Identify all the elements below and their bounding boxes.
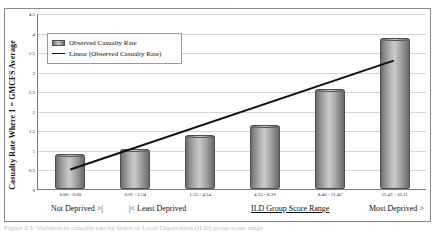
y-tick-label: 0 (33, 188, 36, 193)
legend-item-linear: Linear (Observed Casualty Rate) (52, 48, 177, 59)
y-tick-label: 3.5 (29, 51, 35, 56)
gridline (38, 190, 426, 191)
x-tick-label: 8.40 - 11.42 (318, 192, 342, 197)
y-tick-label: 1 (33, 148, 36, 153)
x-label-not-deprived: Not Deprived >| (51, 204, 103, 213)
y-tick-label: 1.5 (29, 129, 35, 134)
y-tick-label: 3 (33, 70, 36, 75)
chart-frame: Casualty Rate Where 1 = GMCFS Average 00… (4, 8, 431, 222)
x-tick-label: 0.00 - 0.00 (60, 192, 82, 197)
figure-page: · · · · · · Casualty Rate Where 1 = GMCF… (0, 0, 435, 233)
y-tick-label: 4 (33, 31, 36, 36)
x-axis-title: ILD Group Score Range (251, 204, 329, 213)
x-axis-annotations: Not Deprived >| |< Least Deprived ILD Gr… (37, 204, 424, 218)
y-tick-label: 0.5 (29, 168, 35, 173)
y-axis-title: Casualty Rate Where 1 = GMCFS Average (8, 40, 17, 190)
bottom-clipped-caption: Figure 2.3: Variation in casualty rate b… (0, 224, 435, 233)
x-tick-label: 4.55 - 8.39 (254, 192, 276, 197)
x-tick-label: 1.55 - 4.54 (189, 192, 211, 197)
line-swatch-icon (52, 53, 65, 54)
x-tick-label: 11.43 - 16.11 (381, 192, 407, 197)
y-tick-label: 2 (33, 109, 36, 114)
x-label-most-deprived: Most Deprived > (369, 204, 424, 213)
chart-legend: Observed Casualty Rate Linear (Observed … (47, 33, 182, 64)
legend-item-observed: Observed Casualty Rate (52, 37, 177, 48)
top-clipped-caption: · · · · · · (0, 0, 435, 8)
chart-canvas: Casualty Rate Where 1 = GMCFS Average 00… (5, 9, 430, 221)
legend-label-observed: Observed Casualty Rate (69, 39, 137, 47)
legend-label-linear: Linear (Observed Casualty Rate) (69, 50, 161, 58)
y-tick-label: 4.5 (29, 12, 35, 17)
x-tick-label: 0.01 - 1.54 (124, 192, 146, 197)
x-label-least-deprived: |< Least Deprived (129, 204, 186, 213)
y-tick-label: 2.5 (29, 90, 35, 95)
bar-swatch-icon (52, 40, 65, 46)
